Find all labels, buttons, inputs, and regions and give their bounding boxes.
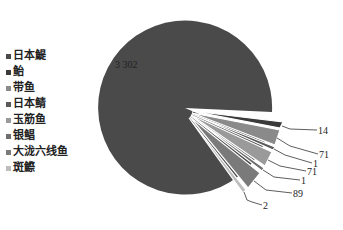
data-label: 71 [319, 149, 329, 160]
pie-chart: 3 302 14 71 1 71 1 89 2 [0, 0, 343, 230]
data-label: 14 [318, 125, 328, 136]
data-label: 2 [263, 200, 268, 211]
data-label: 89 [293, 188, 303, 199]
data-label: 1 [301, 175, 306, 186]
data-label: 71 [307, 166, 317, 177]
data-label-main: 3 302 [115, 59, 138, 70]
